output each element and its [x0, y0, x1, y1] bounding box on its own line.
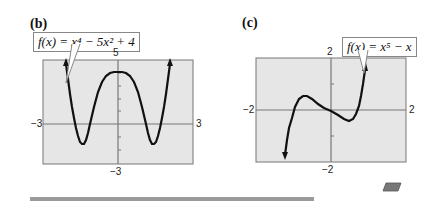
divider-rule [30, 197, 314, 201]
graph-c [256, 50, 406, 162]
tick-c-xmin: −2 [243, 104, 254, 115]
tick-c-xmax: 2 [409, 104, 415, 115]
tick-c-ymin: −2 [322, 164, 333, 175]
tick-b-ymin: −3 [110, 166, 121, 177]
graphs [0, 0, 441, 208]
tick-c-ymax: 2 [327, 46, 333, 57]
parallelogram-icon [382, 182, 402, 192]
tick-b-ymax: 5 [113, 47, 119, 58]
graph-b [43, 44, 193, 164]
tick-b-xmin: −3 [31, 118, 42, 129]
tick-b-xmax: 3 [196, 118, 202, 129]
